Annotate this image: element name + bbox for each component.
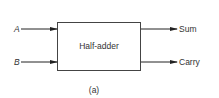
input-a-label: A — [13, 24, 20, 34]
block-label: Half-adder — [79, 41, 119, 51]
half-adder-diagram: Half-adder A B Sum Carry (a) — [0, 0, 219, 98]
output-carry-label: Carry — [179, 57, 201, 67]
output-sum-label: Sum — [179, 24, 196, 34]
caption: (a) — [89, 85, 100, 95]
input-b-label: B — [14, 57, 20, 67]
